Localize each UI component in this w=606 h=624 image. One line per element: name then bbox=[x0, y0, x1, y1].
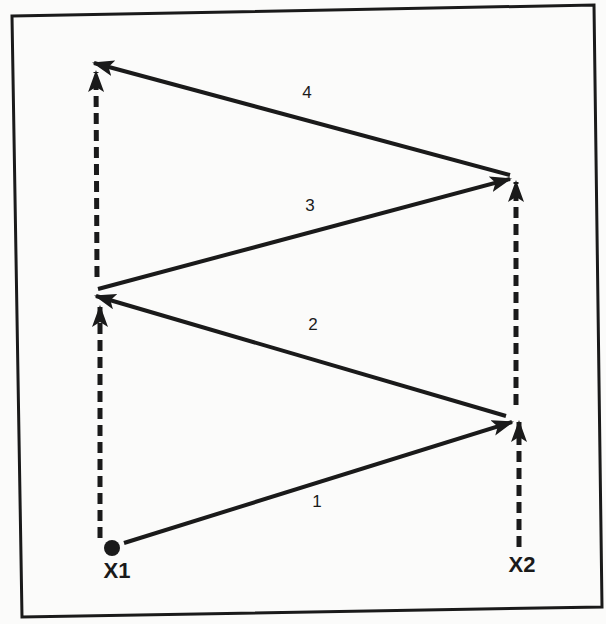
path-arrow-2 bbox=[96, 296, 506, 416]
path-arrow-1 bbox=[124, 422, 512, 543]
path-arrow-3 bbox=[98, 179, 510, 289]
path-arrow-4 bbox=[94, 63, 510, 175]
path-label-3: 3 bbox=[305, 196, 314, 215]
point-label-x1: X1 bbox=[104, 558, 131, 583]
zigzag-diagram: 4 3 2 1 X1 X2 bbox=[0, 0, 606, 624]
point-label-x2: X2 bbox=[509, 552, 536, 577]
path-label-4: 4 bbox=[302, 83, 311, 102]
start-point-x1 bbox=[104, 540, 120, 556]
path-label-2: 2 bbox=[308, 315, 317, 334]
path-label-1: 1 bbox=[312, 492, 321, 511]
dashed-arrow-x1-upper bbox=[96, 72, 97, 277]
